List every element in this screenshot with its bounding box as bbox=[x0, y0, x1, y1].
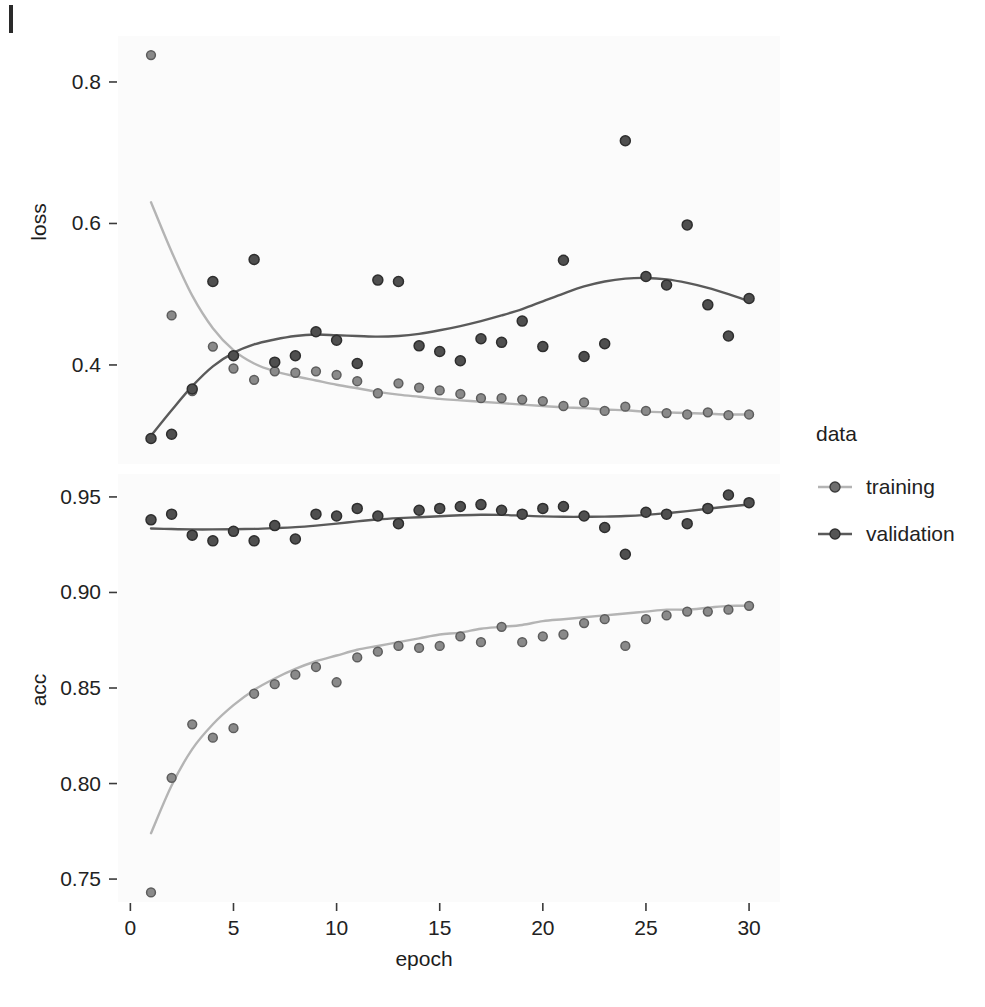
data-point-training-loss bbox=[147, 51, 156, 60]
data-point-validation-acc bbox=[290, 534, 300, 544]
data-point-training-acc bbox=[600, 615, 609, 624]
data-point-validation-acc bbox=[311, 509, 321, 519]
data-point-validation-acc bbox=[352, 503, 362, 513]
data-point-training-acc bbox=[394, 642, 403, 651]
data-point-validation-acc bbox=[393, 519, 403, 529]
data-point-validation-acc bbox=[332, 511, 342, 521]
data-point-validation-loss bbox=[517, 316, 527, 326]
data-point-training-loss bbox=[497, 394, 506, 403]
data-point-training-loss bbox=[600, 407, 609, 416]
x-tick-label-10: 10 bbox=[325, 916, 348, 939]
data-point-validation-acc bbox=[641, 507, 651, 517]
data-point-validation-loss bbox=[600, 339, 610, 349]
data-point-validation-acc bbox=[435, 503, 445, 513]
data-point-validation-acc bbox=[476, 500, 486, 510]
data-point-validation-loss bbox=[538, 342, 548, 352]
data-point-validation-loss bbox=[393, 276, 403, 286]
data-point-training-acc bbox=[538, 632, 547, 641]
data-point-validation-loss bbox=[579, 351, 589, 361]
data-point-training-acc bbox=[147, 888, 156, 897]
data-point-training-acc bbox=[662, 611, 671, 620]
x-tick-label-20: 20 bbox=[531, 916, 554, 939]
data-point-validation-loss bbox=[662, 280, 672, 290]
data-point-validation-acc bbox=[682, 519, 692, 529]
data-point-training-loss bbox=[250, 375, 259, 384]
data-point-training-loss bbox=[559, 402, 568, 411]
data-point-training-acc bbox=[518, 638, 527, 647]
x-axis-title: epoch bbox=[395, 947, 452, 970]
data-point-training-acc bbox=[435, 642, 444, 651]
data-point-validation-acc bbox=[558, 501, 568, 511]
data-point-training-acc bbox=[621, 642, 630, 651]
data-point-validation-loss bbox=[455, 356, 465, 366]
data-point-training-loss bbox=[642, 407, 651, 416]
legend-label-training: training bbox=[866, 475, 935, 498]
y-axis-title-acc: acc bbox=[27, 674, 50, 707]
y-tick-label-acc-0.85: 0.85 bbox=[60, 676, 101, 699]
data-point-training-acc bbox=[332, 678, 341, 687]
data-point-training-loss bbox=[703, 408, 712, 417]
data-point-training-loss bbox=[435, 386, 444, 395]
data-point-training-acc bbox=[353, 653, 362, 662]
y-tick-label-acc-0.80: 0.80 bbox=[60, 772, 101, 795]
data-point-validation-loss bbox=[146, 434, 156, 444]
data-point-training-loss bbox=[683, 410, 692, 419]
scan-artifact-mark bbox=[9, 5, 13, 33]
data-point-training-acc bbox=[497, 622, 506, 631]
data-point-validation-acc bbox=[455, 501, 465, 511]
data-point-training-acc bbox=[312, 663, 321, 672]
data-point-training-loss bbox=[662, 409, 671, 418]
data-point-training-loss bbox=[394, 379, 403, 388]
data-point-validation-acc bbox=[414, 505, 424, 515]
data-point-training-acc bbox=[250, 689, 259, 698]
data-point-validation-acc bbox=[579, 511, 589, 521]
data-point-training-acc bbox=[208, 733, 217, 742]
data-point-training-acc bbox=[477, 638, 486, 647]
data-point-training-loss bbox=[208, 342, 217, 351]
data-point-training-acc bbox=[683, 607, 692, 616]
data-point-validation-loss bbox=[476, 334, 486, 344]
data-point-validation-acc bbox=[270, 521, 280, 531]
chart-canvas: 0510152025300.40.60.80.750.800.850.900.9… bbox=[0, 0, 985, 1007]
data-point-validation-acc bbox=[744, 498, 754, 508]
data-point-training-acc bbox=[291, 670, 300, 679]
plot-figure: 0510152025300.40.60.80.750.800.850.900.9… bbox=[0, 0, 985, 1007]
x-tick-label-30: 30 bbox=[737, 916, 760, 939]
data-point-validation-acc bbox=[208, 536, 218, 546]
data-point-training-loss bbox=[415, 383, 424, 392]
data-point-validation-acc bbox=[620, 549, 630, 559]
data-point-validation-acc bbox=[373, 511, 383, 521]
data-point-training-loss bbox=[291, 368, 300, 377]
y-tick-label-loss-0.4: 0.4 bbox=[72, 353, 102, 376]
data-point-validation-acc bbox=[187, 530, 197, 540]
data-point-validation-loss bbox=[208, 276, 218, 286]
data-point-validation-acc bbox=[538, 503, 548, 513]
data-point-training-acc bbox=[229, 724, 238, 733]
data-point-validation-loss bbox=[435, 347, 445, 357]
data-point-training-loss bbox=[724, 411, 733, 420]
data-point-validation-loss bbox=[187, 384, 197, 394]
data-point-training-loss bbox=[745, 410, 754, 419]
data-point-validation-acc bbox=[662, 509, 672, 519]
data-point-validation-loss bbox=[167, 429, 177, 439]
y-tick-label-loss-0.8: 0.8 bbox=[72, 70, 101, 93]
x-tick-label-5: 5 bbox=[228, 916, 240, 939]
data-point-training-acc bbox=[270, 680, 279, 689]
data-point-validation-loss bbox=[352, 359, 362, 369]
legend-point-validation bbox=[830, 529, 840, 539]
data-point-training-acc bbox=[580, 619, 589, 628]
data-point-training-loss bbox=[167, 311, 176, 320]
legend-point-training bbox=[830, 482, 840, 492]
data-point-validation-acc bbox=[167, 509, 177, 519]
y-tick-label-loss-0.6: 0.6 bbox=[72, 211, 101, 234]
x-tick-label-0: 0 bbox=[125, 916, 137, 939]
y-tick-label-acc-0.95: 0.95 bbox=[60, 485, 101, 508]
data-point-validation-loss bbox=[311, 327, 321, 337]
data-point-validation-acc bbox=[497, 505, 507, 515]
data-point-validation-loss bbox=[703, 300, 713, 310]
data-point-validation-acc bbox=[249, 536, 259, 546]
data-point-validation-loss bbox=[332, 335, 342, 345]
data-point-training-loss bbox=[229, 364, 238, 373]
data-point-validation-loss bbox=[682, 220, 692, 230]
data-point-validation-loss bbox=[249, 255, 259, 265]
